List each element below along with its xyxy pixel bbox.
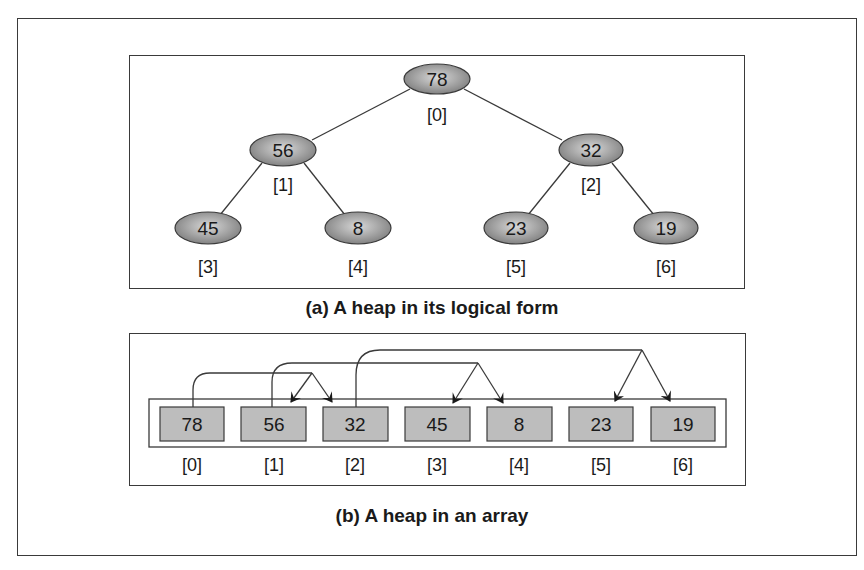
cell-value: 56 (263, 414, 284, 435)
caption-array-form: (b) A heap in an array (0, 505, 864, 527)
node-value: 8 (353, 218, 364, 239)
cell-index: [2] (345, 455, 365, 475)
edge-2-5 (528, 163, 570, 215)
edge-2-6 (612, 163, 654, 215)
cell-value: 78 (181, 414, 202, 435)
node-value: 19 (655, 218, 676, 239)
node-index: [2] (581, 175, 601, 195)
array-cell-5: 23 [5] (569, 407, 633, 475)
tree-node-5: 23 [5] (484, 212, 548, 277)
array-cell-2: 32 [2] (323, 407, 388, 475)
cell-value: 8 (514, 414, 525, 435)
cell-value: 19 (672, 414, 693, 435)
cell-index: [0] (182, 455, 202, 475)
edge-1-4 (304, 163, 345, 215)
cell-value: 45 (426, 414, 447, 435)
node-index: [1] (273, 175, 293, 195)
node-index: [5] (506, 257, 526, 277)
node-index: [6] (656, 257, 676, 277)
array-cell-0: 78 [0] (160, 407, 224, 475)
node-value: 32 (580, 140, 601, 161)
edge-0-2 (464, 89, 562, 140)
caption-logical-form: (a) A heap in its logical form (0, 297, 864, 319)
cell-value: 32 (344, 414, 365, 435)
cell-index: [5] (591, 455, 611, 475)
node-index: [4] (348, 257, 368, 277)
edge-0-1 (312, 89, 410, 140)
heap-diagram: 78 [0] 56 [1] 32 [2] 45 [3] 8 [4] 23 [5]… (0, 0, 864, 570)
node-index: [0] (427, 105, 447, 125)
tree-node-4: 8 [4] (325, 212, 391, 277)
node-value: 45 (197, 218, 218, 239)
cell-index: [1] (264, 455, 284, 475)
tree-node-1: 56 [1] (250, 134, 316, 195)
array-cell-6: 19 [6] (651, 407, 715, 475)
array-cell-3: 45 [3] (405, 407, 470, 475)
cell-index: [6] (673, 455, 693, 475)
cell-value: 23 (590, 414, 611, 435)
node-value: 23 (505, 218, 526, 239)
array-cell-4: 8 [4] (487, 407, 552, 475)
node-index: [3] (198, 257, 218, 277)
edge-1-3 (220, 163, 262, 215)
tree-node-6: 19 [6] (634, 212, 698, 277)
node-value: 78 (426, 69, 447, 90)
array-cell-1: 56 [1] (241, 407, 306, 475)
tree-node-0: 78 [0] (404, 64, 470, 125)
node-value: 56 (272, 140, 293, 161)
cell-index: [3] (427, 455, 447, 475)
tree-node-3: 45 [3] (175, 212, 241, 277)
cell-index: [4] (509, 455, 529, 475)
